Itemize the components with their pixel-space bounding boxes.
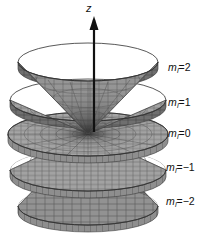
cone-label-ml-1-value: =1 — [179, 96, 191, 108]
cone-label-ml-2-value: =2 — [179, 61, 191, 73]
cone-label-ml-2-symbol: m — [168, 61, 177, 73]
cone-label-ml-1: ml=1 — [168, 97, 191, 111]
cone-label-ml-minus-1-value: =−1 — [177, 161, 195, 173]
cone-label-ml-0-value: =0 — [179, 127, 191, 139]
cone-label-ml-0-symbol: m — [168, 127, 177, 139]
z-axis-label: z — [86, 2, 92, 14]
cone-label-ml-minus-1: ml=−1 — [166, 162, 195, 176]
cone-label-ml-2: ml=2 — [168, 62, 191, 76]
cone-label-ml-minus-2: ml=−2 — [166, 196, 195, 210]
angular-momentum-cone-figure: z ml=2 ml=1 ml=0 ml=−1 ml=−2 — [0, 0, 221, 239]
cone-label-ml-0: ml=0 — [168, 128, 191, 142]
cone-label-ml-minus-2-symbol: m — [166, 195, 175, 207]
cone-label-ml-minus-2-value: =−2 — [177, 195, 195, 207]
cone-label-ml-minus-1-symbol: m — [166, 161, 175, 173]
cone-label-ml-1-symbol: m — [168, 96, 177, 108]
